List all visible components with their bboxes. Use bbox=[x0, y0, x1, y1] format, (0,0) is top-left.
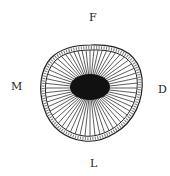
cross-section-figure bbox=[0, 0, 170, 176]
dark-core bbox=[70, 74, 110, 100]
